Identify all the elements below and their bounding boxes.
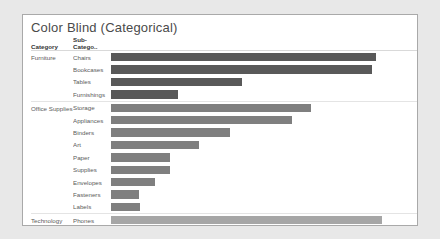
category-label: Technology — [31, 214, 73, 226]
bar[interactable] — [111, 53, 376, 61]
bar-track — [111, 201, 417, 213]
plot-area: FurnitureChairsBookcasesTablesFurnishing… — [31, 50, 417, 226]
bar-track — [111, 88, 417, 100]
bar[interactable] — [111, 153, 170, 161]
subcategory-label: Tables — [73, 78, 111, 85]
bar-row[interactable]: Envelopes — [73, 176, 417, 188]
bar-track — [111, 63, 417, 75]
bar-track — [111, 76, 417, 88]
bar[interactable] — [111, 65, 372, 73]
bar[interactable] — [111, 128, 230, 136]
bar-track — [111, 114, 417, 126]
bar-track — [111, 139, 417, 151]
chart-title: Color Blind (Categorical) — [23, 15, 417, 37]
subcategory-label: Chairs — [73, 54, 111, 61]
bar-row[interactable]: Furnishings — [73, 88, 417, 100]
visualization-card: Color Blind (Categorical) Category Sub-C… — [22, 14, 418, 226]
bar-row[interactable]: Fasteners — [73, 188, 417, 200]
bar-rows: ChairsBookcasesTablesFurnishings — [73, 51, 417, 101]
bar-row[interactable]: Phones — [73, 214, 417, 226]
category-group: TechnologyPhonesCopiersMachinesAccessori… — [31, 214, 417, 226]
subcategory-label: Phones — [73, 217, 111, 224]
bar-track — [111, 176, 417, 188]
subcategory-label: Supplies — [73, 166, 111, 173]
category-group: FurnitureChairsBookcasesTablesFurnishing… — [31, 51, 417, 102]
bar-row[interactable]: Art — [73, 139, 417, 151]
category-label: Office Supplies — [31, 102, 73, 214]
bar-row[interactable]: Supplies — [73, 164, 417, 176]
subcategory-label: Appliances — [73, 117, 111, 124]
bar-rows: PhonesCopiersMachinesAccessories — [73, 214, 417, 226]
subcategory-label: Bookcases — [73, 66, 111, 73]
subcategory-label: Storage — [73, 104, 111, 111]
bar-row[interactable]: Storage — [73, 102, 417, 114]
bar[interactable] — [111, 78, 242, 86]
subcategory-label: Fasteners — [73, 191, 111, 198]
column-header-category: Category — [31, 43, 73, 50]
subcategory-label: Envelopes — [73, 179, 111, 186]
bar-rows: StorageAppliancesBindersArtPaperSupplies… — [73, 102, 417, 214]
bar-track — [111, 151, 417, 163]
bar[interactable] — [111, 203, 140, 211]
bar-track — [111, 214, 417, 226]
bar[interactable] — [111, 141, 199, 149]
category-group: Office SuppliesStorageAppliancesBindersA… — [31, 102, 417, 215]
bar[interactable] — [111, 104, 311, 112]
subcategory-label: Art — [73, 141, 111, 148]
subcategory-label: Paper — [73, 154, 111, 161]
subcategory-label: Furnishings — [73, 91, 111, 98]
column-header-row: Category Sub-Catego.. — [23, 37, 417, 50]
bar[interactable] — [111, 190, 139, 198]
bar-row[interactable]: Appliances — [73, 114, 417, 126]
bar-row[interactable]: Tables — [73, 76, 417, 88]
bar-track — [111, 51, 417, 63]
subcategory-label: Labels — [73, 203, 111, 210]
bar-row[interactable]: Bookcases — [73, 63, 417, 75]
bar-row[interactable]: Paper — [73, 151, 417, 163]
bar-track — [111, 102, 417, 114]
subcategory-label: Binders — [73, 129, 111, 136]
bar-row[interactable]: Binders — [73, 126, 417, 138]
bar-row[interactable]: Chairs — [73, 51, 417, 63]
column-header-subcategory: Sub-Catego.. — [73, 36, 111, 50]
bar[interactable] — [111, 116, 292, 124]
bar[interactable] — [111, 166, 170, 174]
bar-track — [111, 188, 417, 200]
category-label: Furniture — [31, 51, 73, 101]
bar[interactable] — [111, 216, 382, 224]
bar[interactable] — [111, 90, 178, 98]
bar[interactable] — [111, 178, 155, 186]
bar-track — [111, 126, 417, 138]
bar-track — [111, 164, 417, 176]
bar-row[interactable]: Labels — [73, 201, 417, 213]
